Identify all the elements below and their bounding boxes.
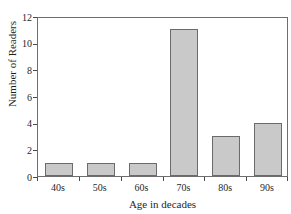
x-tick-mark — [204, 177, 205, 181]
chart-title-remnant — [60, 0, 240, 3]
x-axis-tick-marks — [37, 177, 288, 181]
y-tick-label: 0 — [16, 172, 32, 183]
y-tick-label: 2 — [16, 145, 32, 156]
x-tick-label: 50s — [79, 182, 121, 194]
x-tick-mark — [163, 177, 164, 181]
y-tick-label: 10 — [16, 38, 32, 49]
x-tick-label: 40s — [37, 182, 79, 194]
bar — [45, 163, 73, 176]
bar — [170, 29, 198, 176]
bar — [254, 123, 282, 176]
x-tick-mark — [287, 177, 288, 181]
plot-area — [37, 17, 288, 177]
x-tick-label: 80s — [204, 182, 246, 194]
bar — [212, 136, 240, 176]
y-tick-label: 4 — [16, 118, 32, 129]
y-tick-label: 8 — [16, 65, 32, 76]
bar — [129, 163, 157, 176]
x-axis-tick-labels: 40s50s60s70s80s90s — [37, 182, 288, 194]
x-tick-mark — [37, 177, 38, 181]
y-axis-tick-labels: 024681012 — [14, 0, 32, 214]
x-tick-label: 60s — [121, 182, 163, 194]
x-tick-label: 90s — [246, 182, 288, 194]
x-tick-mark — [246, 177, 247, 181]
x-axis-label: Age in decades — [37, 198, 288, 211]
x-tick-mark — [121, 177, 122, 181]
y-tick-label: 6 — [16, 92, 32, 103]
bars-container — [38, 18, 287, 176]
y-tick-label: 12 — [16, 12, 32, 23]
x-tick-label: 70s — [163, 182, 205, 194]
bar-chart-figure: Number of Readers 024681012 40s50s60s70s… — [0, 0, 291, 214]
x-tick-mark — [79, 177, 80, 181]
bar — [87, 163, 115, 176]
